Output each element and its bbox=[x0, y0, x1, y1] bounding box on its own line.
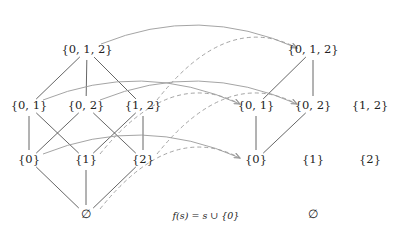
function-diagram: {0, 1, 2}{0, 1}{0, 2}{1, 2}{0}{1}{2}∅ {0… bbox=[0, 0, 394, 235]
left-hasse-edge bbox=[86, 60, 87, 96]
left-hasse-edges bbox=[29, 57, 143, 208]
right-node-2: {2} bbox=[359, 154, 381, 166]
function-caption: f(s) = s ∪ {0} bbox=[173, 210, 240, 221]
left-hasse-edge bbox=[93, 167, 136, 208]
mapping-arrow-dashed bbox=[157, 93, 297, 154]
left-hasse-edge bbox=[36, 57, 80, 99]
left-node-1: {1} bbox=[75, 154, 97, 166]
left-node-2: {2} bbox=[132, 154, 154, 166]
right-hasse-edge bbox=[263, 57, 306, 99]
left-hasse-edge bbox=[36, 167, 79, 208]
right-node-0-1-2: {0, 1, 2} bbox=[287, 44, 338, 56]
right-node-empty: ∅ bbox=[308, 209, 318, 221]
left-node-empty: ∅ bbox=[81, 209, 91, 221]
left-node-0-1-2: {0, 1, 2} bbox=[61, 44, 112, 56]
mapping-arrow-dashed bbox=[157, 37, 297, 100]
left-node-1-2: {1, 2} bbox=[125, 100, 162, 112]
right-node-0-2: {0, 2} bbox=[295, 100, 332, 112]
right-node-0-1: {0, 1} bbox=[238, 100, 275, 112]
mapping-arrow-dashed bbox=[100, 93, 240, 154]
mapping-arrow-solid bbox=[101, 25, 297, 48]
left-node-0-2: {0, 2} bbox=[68, 100, 105, 112]
left-hasse-edge bbox=[94, 57, 136, 99]
right-hasse-edge bbox=[263, 113, 305, 153]
right-node-1-2: {1, 2} bbox=[352, 100, 389, 112]
left-node-0-1: {0, 1} bbox=[11, 100, 48, 112]
edges-layer bbox=[0, 0, 394, 235]
left-node-0: {0} bbox=[18, 154, 40, 166]
right-node-1: {1} bbox=[302, 154, 324, 166]
right-node-0: {0} bbox=[245, 154, 267, 166]
mapping-arrow-dashed bbox=[100, 147, 240, 209]
